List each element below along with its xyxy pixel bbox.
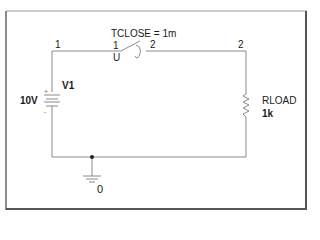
- wire-left-lower: [52, 106, 246, 157]
- ground-node-label: 0: [97, 184, 103, 195]
- battery-icon: [44, 95, 60, 106]
- resistor-value-label: 1k: [262, 109, 273, 119]
- switch-type-label: U: [113, 53, 120, 63]
- switch-param-label: TCLOSE = 1m: [111, 29, 176, 39]
- source-name-label: V1: [62, 81, 74, 91]
- switch-pin-left-label: 1: [113, 41, 119, 51]
- ground-icon: [83, 176, 101, 182]
- wires: [52, 51, 246, 176]
- source-value-label: 10V: [20, 96, 38, 106]
- switch-icon: [121, 41, 140, 58]
- node-label-top-left: 1: [55, 40, 61, 50]
- switch-pin-right-label: 2: [150, 40, 156, 50]
- junction-dot: [90, 155, 94, 159]
- source-minus-sign: -: [44, 108, 46, 115]
- resistor-icon: [243, 94, 249, 117]
- resistor-name-label: RLOAD: [262, 96, 296, 106]
- source-plus-sign: +: [44, 88, 48, 95]
- node-label-top-right: 2: [238, 40, 244, 50]
